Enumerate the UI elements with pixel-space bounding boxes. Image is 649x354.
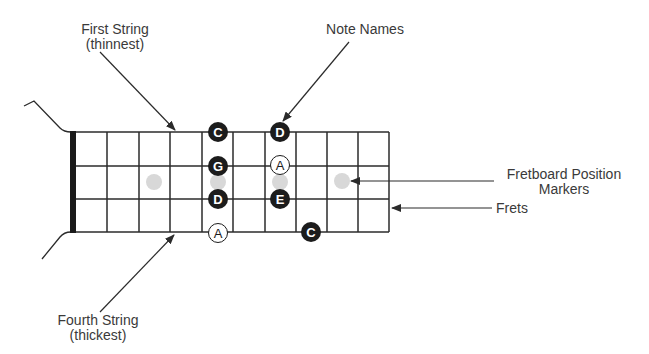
fourth-string-label-line2: (thickest): [43, 328, 153, 343]
first-string-arrow: [100, 52, 175, 130]
note-g-string2: G: [208, 156, 228, 176]
svg-text:E: E: [276, 192, 285, 207]
position-markers-label: Fretboard Position Markers: [494, 167, 634, 197]
headstock-outline-top: [24, 101, 71, 132]
first-string-label: First String (thinnest): [60, 22, 170, 52]
position-markers-label-line1: Fretboard Position: [494, 167, 634, 182]
nut: [70, 131, 76, 233]
frets-label: Frets: [496, 201, 528, 216]
note-a-string4: A: [209, 224, 228, 243]
svg-text:D: D: [275, 125, 284, 140]
note-c-string1: C: [208, 122, 228, 142]
position-markers: [146, 173, 350, 190]
note-d-string3: D: [208, 189, 228, 209]
frets-label-line1: Frets: [496, 201, 528, 216]
first-string-label-line2: (thinnest): [60, 37, 170, 52]
note-names-label: Note Names: [310, 22, 420, 37]
svg-text:A: A: [276, 158, 285, 173]
note-names-label-line1: Note Names: [310, 22, 420, 37]
position-marker-3: [146, 174, 162, 190]
svg-text:C: C: [213, 125, 223, 140]
position-marker-7: [272, 174, 288, 190]
note-names-arrow: [283, 42, 349, 121]
position-markers-label-line2: Markers: [494, 182, 634, 197]
headstock-outline-bottom: [42, 232, 71, 259]
fourth-string-arrow: [100, 235, 174, 312]
fourth-string-label-line1: Fourth String: [43, 313, 153, 328]
svg-text:D: D: [213, 192, 222, 207]
position-marker-5: [210, 174, 226, 190]
position-marker-9: [334, 173, 350, 189]
note-e-string3: E: [270, 189, 290, 209]
svg-text:C: C: [306, 225, 316, 240]
first-string-label-line1: First String: [60, 22, 170, 37]
svg-text:G: G: [213, 159, 223, 174]
note-d-string1: D: [270, 122, 290, 142]
fourth-string-label: Fourth String (thickest): [43, 313, 153, 343]
note-c-string4: C: [301, 222, 321, 242]
note-a-string2: A: [271, 156, 290, 175]
svg-text:A: A: [214, 226, 223, 241]
